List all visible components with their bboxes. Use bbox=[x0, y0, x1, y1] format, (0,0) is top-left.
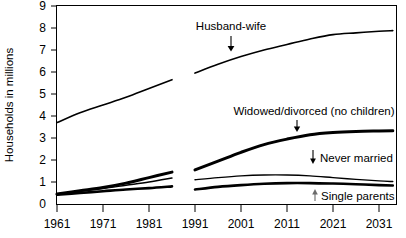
x-tick-label: 1971 bbox=[90, 217, 117, 231]
y-tick-labels: 9 8 7 6 5 4 3 2 1 0 bbox=[39, 0, 46, 211]
x-tick-label: 2011 bbox=[274, 217, 300, 231]
y-tick-label: 4 bbox=[39, 109, 46, 123]
x-tick-label: 1981 bbox=[136, 217, 163, 231]
y-tick-label: 0 bbox=[39, 197, 46, 211]
x-tick-labels: 1961 1971 1981 1991 2001 2011 2021 2031 bbox=[44, 217, 393, 231]
y-tick-label: 8 bbox=[39, 21, 46, 35]
y-tick-label: 5 bbox=[39, 87, 46, 101]
y-axis-title: Households in millions bbox=[3, 48, 15, 163]
x-tick-label: 2021 bbox=[320, 217, 347, 231]
annotation-label: Husband-wife bbox=[196, 20, 266, 32]
line-chart: 9 8 7 6 5 4 3 2 1 0 1961 1971 1981 bbox=[0, 0, 406, 238]
x-axis-ticks bbox=[57, 205, 379, 212]
annotation-never-married: Never married bbox=[310, 150, 393, 164]
x-tick-label: 2031 bbox=[366, 217, 393, 231]
chart-container: 9 8 7 6 5 4 3 2 1 0 1961 1971 1981 bbox=[0, 0, 406, 238]
x-tick-label: 2001 bbox=[228, 217, 255, 231]
y-tick-label: 7 bbox=[39, 43, 46, 57]
annotation-label: Single parents bbox=[321, 190, 395, 202]
y-tick-label: 9 bbox=[39, 0, 46, 13]
annotation-single-parents: Single parents bbox=[312, 189, 395, 202]
annotation-label: Never married bbox=[320, 152, 393, 164]
y-tick-label: 2 bbox=[39, 153, 46, 167]
annotation-label: Widowed/divorced (no children) bbox=[233, 105, 394, 117]
y-tick-label: 6 bbox=[39, 65, 46, 79]
y-tick-label: 3 bbox=[39, 131, 46, 145]
y-tick-label: 1 bbox=[39, 175, 46, 189]
x-tick-label: 1991 bbox=[182, 217, 209, 231]
x-tick-label: 1961 bbox=[44, 217, 71, 231]
